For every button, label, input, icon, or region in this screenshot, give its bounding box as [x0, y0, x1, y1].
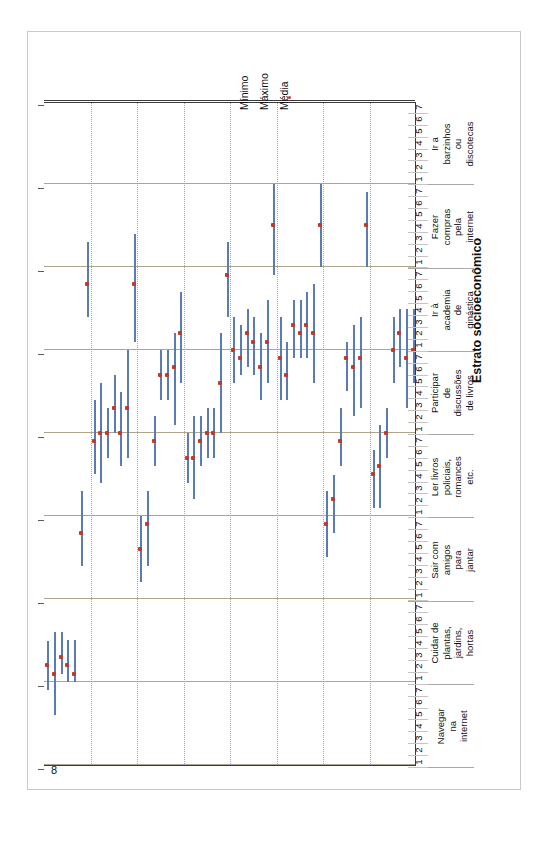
strata-tick: 1 — [408, 506, 428, 518]
strata-tick: 4 — [408, 720, 428, 732]
category-label: Ler livros policiais, romances etc. — [430, 435, 474, 518]
strata-label: 4 — [413, 470, 424, 482]
strata-label: 4 — [413, 304, 424, 316]
range-bar — [134, 234, 136, 342]
mean-marker — [98, 431, 102, 435]
range-bar — [286, 342, 288, 400]
strata-tick: 5 — [408, 625, 428, 637]
mean-marker — [118, 431, 122, 435]
strata-tick: 4 — [408, 554, 428, 566]
category-group: 1234567Cuidar de plantas, jardins, horta… — [408, 602, 474, 685]
category-group: 1234567Sair com amigos para jantar — [408, 518, 474, 601]
strata-tick: 4 — [408, 471, 428, 483]
strata-label: 2 — [413, 161, 424, 173]
strata-tick: 2 — [408, 494, 428, 506]
strata-label: 5 — [413, 708, 424, 720]
strata-label: 3 — [413, 399, 424, 411]
strata-label: 4 — [413, 220, 424, 232]
strata-label: 4 — [413, 720, 424, 732]
strata-tick: 4 — [408, 138, 428, 150]
value-tick-mark — [38, 769, 44, 770]
legend-item-minimo: Mínimo — [238, 40, 256, 112]
mean-marker — [79, 531, 83, 535]
strata-label: 1 — [413, 672, 424, 684]
range-bar — [174, 333, 176, 424]
strata-tick: 7 — [408, 602, 428, 614]
category-label: Navegar na internet — [430, 685, 474, 768]
strata-label: 3 — [413, 149, 424, 161]
strata-tick: 2 — [408, 661, 428, 673]
strata-tick: 3 — [408, 483, 428, 495]
strata-label: 6 — [413, 197, 424, 209]
range-bar — [399, 309, 401, 367]
range-bar — [360, 317, 362, 408]
strata-tick: 6 — [408, 697, 428, 709]
strata-tick: 7 — [408, 518, 428, 530]
mean-marker — [198, 439, 202, 443]
strata-label: 3 — [413, 649, 424, 661]
strata-label: 1 — [413, 256, 424, 268]
range-bar — [340, 408, 342, 466]
strata-tick: 2 — [408, 161, 428, 173]
range-bar — [87, 242, 89, 317]
strata-label: 5 — [413, 458, 424, 470]
mean-marker — [391, 348, 395, 352]
group-separator — [323, 103, 324, 765]
range-bar — [300, 300, 302, 358]
mean-marker — [298, 331, 302, 335]
range-bar — [114, 375, 116, 433]
legend-label: Máximo — [258, 73, 270, 110]
category-label: Ir à academia de ginástica — [430, 269, 474, 352]
strata-label: 1 — [413, 173, 424, 185]
range-bar — [240, 325, 242, 375]
mean-marker — [324, 522, 328, 526]
mean-marker — [304, 323, 308, 327]
mean-marker — [225, 273, 229, 277]
mean-marker — [112, 406, 116, 410]
strata-tick: 3 — [408, 316, 428, 328]
category-group: 1234567Participar de discussões de livro… — [408, 352, 474, 435]
mean-marker — [358, 356, 362, 360]
strata-label: 6 — [413, 363, 424, 375]
range-bar — [366, 192, 368, 267]
strata-tick: 3 — [408, 732, 428, 744]
strata-label: 6 — [413, 280, 424, 292]
category-label-text: Fazer compras pela internet — [429, 205, 475, 249]
mean-marker — [371, 473, 375, 477]
mean-marker — [105, 431, 109, 435]
strata-tick: 6 — [408, 197, 428, 209]
mean-marker — [158, 373, 162, 377]
mean-marker — [165, 373, 169, 377]
strata-label: 3 — [413, 232, 424, 244]
strata-label: 6 — [413, 446, 424, 458]
category-label-text: Cuidar de plantas, jardins, hortas — [429, 621, 475, 665]
category-label: Ir a barzinhos ou discotecas — [430, 102, 474, 185]
strata-label: 2 — [413, 411, 424, 423]
strata-label: 6 — [413, 696, 424, 708]
group-separator — [184, 103, 185, 765]
legend: MínimoMáximoMédia — [238, 40, 298, 112]
strata-tick: 1 — [408, 423, 428, 435]
range-bar — [180, 292, 182, 383]
strata-label: 4 — [413, 137, 424, 149]
strata-label: 1 — [413, 339, 424, 351]
range-bar — [247, 309, 249, 367]
strata-tick: 7 — [408, 685, 428, 697]
strata-label: 7 — [413, 684, 424, 696]
strata-tick: 7 — [408, 352, 428, 364]
strata-label: 7 — [413, 434, 424, 446]
range-bar — [147, 491, 149, 566]
category-group: 1234567Ir à academia de ginástica — [408, 269, 474, 352]
mean-marker — [318, 224, 322, 228]
strata-label: 5 — [413, 208, 424, 220]
mean-marker — [344, 356, 348, 360]
strata-label: 6 — [413, 613, 424, 625]
strata-label: 1 — [413, 589, 424, 601]
strata-tick: 1 — [408, 590, 428, 602]
strata-label: 7 — [413, 601, 424, 613]
mean-marker — [265, 340, 269, 344]
strata-tick: 2 — [408, 578, 428, 590]
category-axis: 1234567Navegar na internet1234567Cuidar … — [408, 102, 474, 768]
strata-tick: 3 — [408, 399, 428, 411]
category-label-text: Navegar na internet — [435, 704, 470, 748]
